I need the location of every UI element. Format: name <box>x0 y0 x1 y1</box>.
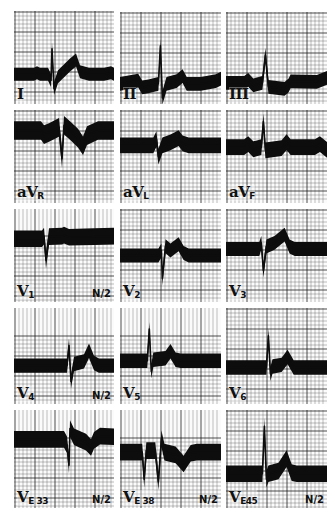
lead-label-main: V <box>123 282 134 300</box>
lead-label-main: V <box>229 282 240 300</box>
lead-label-avl: aVL <box>123 185 149 201</box>
lead-label-v6: V6 <box>229 386 246 402</box>
lead-label-v5: V5 <box>123 386 140 402</box>
lead-label-main: aV <box>229 183 249 201</box>
lead-label-iii: III <box>229 87 249 102</box>
ecg-trace <box>120 237 221 285</box>
ecg-trace <box>226 418 327 488</box>
ecg-trace <box>120 130 221 164</box>
lead-label-subscript: 1 <box>28 290 34 300</box>
ecg-panel-ve38: VE 38N/2 <box>120 410 221 508</box>
ecg-panel-avf: aVF <box>226 110 327 203</box>
lead-label-ve38: VE 38 <box>123 490 154 506</box>
lead-label-main: I <box>17 85 24 103</box>
ecg-panel-v1: V1N/2 <box>14 209 114 302</box>
lead-label-subscript: L <box>143 191 148 201</box>
lead-label-main: III <box>229 85 249 103</box>
lead-label-v3: V3 <box>229 284 246 300</box>
lead-label-subscript: E 38 <box>134 496 154 506</box>
ecg-panel-v3: V3 <box>226 209 327 302</box>
ecg-panel-ii: II <box>120 12 221 104</box>
lead-label-v4: V4 <box>17 386 34 402</box>
ecg-panel-ve45: VE45N/2 <box>226 410 327 508</box>
ecg-panel-v4: V4N/2 <box>14 308 114 404</box>
gain-label: N/2 <box>92 289 111 299</box>
ecg-panel-v6: V6 <box>226 308 327 404</box>
ecg-figure: IIIIIIaVRaVLaVFV1N/2V2V3V4N/2V5V6VE 33N/… <box>0 0 335 521</box>
lead-label-main: V <box>229 488 240 506</box>
lead-label-subscript: E 33 <box>28 496 48 506</box>
lead-label-main: V <box>17 384 28 402</box>
lead-label-ii: II <box>123 87 136 102</box>
lead-label-subscript: E45 <box>240 496 257 506</box>
gain-label: N/2 <box>92 391 111 401</box>
ecg-panel-avl: aVL <box>120 110 221 203</box>
lead-label-subscript: 6 <box>240 392 246 402</box>
lead-label-subscript: 3 <box>240 290 246 300</box>
lead-label-main: V <box>229 384 240 402</box>
lead-label-v1: V1 <box>17 284 34 300</box>
lead-label-ve45: VE45 <box>229 490 257 506</box>
ecg-panel-avr: aVR <box>14 110 114 203</box>
gain-label: N/2 <box>305 495 324 505</box>
lead-label-subscript: R <box>37 191 43 201</box>
ecg-panel-iii: III <box>226 12 327 104</box>
lead-label-subscript: F <box>249 191 255 201</box>
lead-label-ve33: VE 33 <box>17 490 48 506</box>
ecg-panel-i: I <box>14 11 114 104</box>
lead-label-main: aV <box>123 183 143 201</box>
lead-label-v2: V2 <box>123 284 140 300</box>
ecg-trace <box>226 114 327 159</box>
gain-label: N/2 <box>92 495 111 505</box>
lead-label-main: V <box>17 282 28 300</box>
lead-label-main: V <box>123 488 134 506</box>
gain-label: N/2 <box>199 495 218 505</box>
ecg-panel-ve33: VE 33N/2 <box>14 410 114 508</box>
lead-label-subscript: 2 <box>134 290 140 300</box>
lead-label-main: II <box>123 85 136 103</box>
lead-label-main: V <box>123 384 134 402</box>
lead-label-avr: aVR <box>17 185 44 201</box>
ecg-panel-v5: V5 <box>120 308 221 404</box>
lead-label-main: V <box>17 488 28 506</box>
ecg-panel-v2: V2 <box>120 209 221 302</box>
ecg-grid-and-trace <box>14 11 114 104</box>
lead-label-main: aV <box>17 183 37 201</box>
ecg-trace <box>120 430 221 490</box>
ecg-trace <box>226 329 327 382</box>
lead-label-i: I <box>17 87 24 102</box>
lead-label-subscript: 5 <box>134 392 140 402</box>
lead-label-avf: aVF <box>229 185 255 201</box>
ecg-trace <box>120 322 221 379</box>
lead-label-subscript: 4 <box>28 392 34 402</box>
